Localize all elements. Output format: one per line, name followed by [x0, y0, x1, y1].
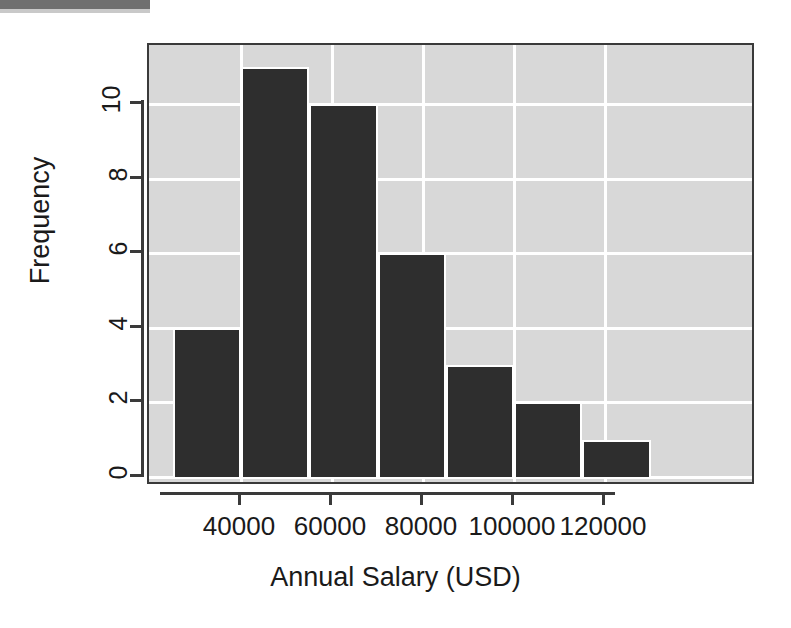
x-axis-tick-label: 80000: [385, 511, 457, 542]
scan-artifact-band-light: [0, 9, 150, 13]
y-axis-tick: [130, 101, 141, 104]
y-axis-title: Frequency: [25, 121, 56, 321]
histogram-screenshot: Frequency 0246810 4000060000800001000001…: [0, 0, 791, 628]
x-axis-tick: [329, 492, 332, 505]
plot-inner: [149, 45, 752, 482]
x-axis-tick-label: 120000: [560, 511, 647, 542]
y-axis-tick-label: 0: [0, 458, 126, 487]
x-axis-title: Annual Salary (USD): [0, 562, 791, 593]
plot-area: [147, 43, 754, 484]
histogram-bar: [446, 365, 514, 477]
histogram-bar: [241, 67, 309, 477]
y-axis-tick-label: 10: [0, 85, 126, 114]
x-axis-line: [160, 492, 615, 495]
scan-artifact-band: [0, 0, 150, 9]
x-axis-tick: [602, 492, 605, 505]
x-axis-tick-label: 60000: [294, 511, 366, 542]
histogram-bar: [582, 440, 650, 477]
gridline-vertical: [604, 45, 607, 482]
histogram-bar: [378, 253, 446, 477]
y-axis-line: [141, 100, 144, 477]
x-axis-tick: [420, 492, 423, 505]
histogram-bar: [514, 402, 582, 477]
x-axis-tick-label: 40000: [203, 511, 275, 542]
y-axis-tick-label: 8: [0, 160, 126, 189]
x-axis-tick-label: 100000: [469, 511, 556, 542]
y-axis-tick-label: 2: [0, 383, 126, 412]
x-axis-tick: [238, 492, 241, 505]
y-axis-tick-label: 6: [0, 234, 126, 263]
histogram-bar: [309, 104, 377, 477]
histogram-bar: [173, 328, 241, 477]
x-axis-tick: [511, 492, 514, 505]
y-axis-tick-label: 4: [0, 309, 126, 338]
